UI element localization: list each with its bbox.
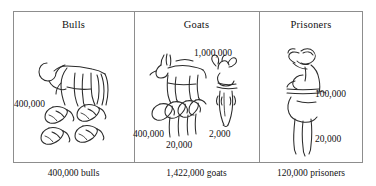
panel-prisoners: Prisoners bbox=[259, 11, 363, 163]
lotus-stem-glyph-group bbox=[169, 114, 196, 137]
label-goats-1000000: 1,000,000 bbox=[194, 48, 232, 58]
caption-goats: 1,422,000 goats bbox=[134, 168, 259, 178]
panel-bulls: Bulls bbox=[13, 11, 134, 163]
lotus-flower-glyph-group bbox=[41, 105, 106, 145]
caption-bulls: 400,000 bulls bbox=[13, 168, 134, 178]
caption-prisoners: 120,000 prisoners bbox=[259, 168, 363, 178]
lotus-flower-glyph bbox=[75, 126, 104, 143]
goats-artwork bbox=[134, 11, 259, 163]
label-goats-2000: 2,000 bbox=[209, 129, 230, 139]
heh-god-glyph bbox=[212, 55, 237, 127]
prisoners-artwork bbox=[259, 11, 363, 163]
bulls-artwork bbox=[13, 11, 134, 163]
panel-goats: Goats bbox=[134, 11, 259, 163]
label-prisoners-20000: 20,000 bbox=[315, 134, 341, 144]
goat-figure bbox=[150, 54, 206, 103]
lotus-flower-glyph bbox=[41, 128, 70, 145]
label-prisoners-100000: 100,000 bbox=[315, 89, 346, 99]
label-goats-20000: 20,000 bbox=[166, 140, 192, 150]
lotus-flower-glyph bbox=[77, 105, 106, 122]
hieroglyph-tally-figure: Bulls bbox=[0, 0, 376, 186]
bull-figure bbox=[39, 63, 108, 107]
label-bulls-400000: 400,000 bbox=[14, 99, 45, 109]
label-goats-400000: 400,000 bbox=[133, 129, 164, 139]
lotus-flower-glyph bbox=[45, 107, 74, 124]
